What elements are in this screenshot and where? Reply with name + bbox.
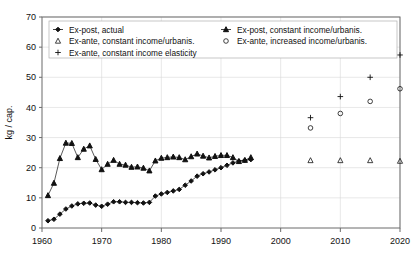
- series-3: [308, 86, 402, 130]
- y-tick-label: 20: [26, 163, 36, 173]
- legend-label: Ex-post, constant income/urbanis.: [237, 25, 362, 35]
- legend-item[interactable]: Ex-ante, constant income/urbanis.: [55, 36, 194, 46]
- data-point: [93, 203, 98, 208]
- data-point: [189, 154, 194, 159]
- data-point: [105, 202, 110, 207]
- y-tick-label: 50: [26, 72, 36, 82]
- data-point: [308, 115, 314, 121]
- data-point: [165, 190, 170, 195]
- data-point: [105, 161, 110, 166]
- legend-label: Ex-ante, increased income/urbanis.: [237, 36, 367, 46]
- x-tick-label: 2020: [390, 236, 410, 246]
- data-point: [183, 183, 188, 188]
- y-axis-tick-labels: 010203040506070: [26, 12, 36, 233]
- data-point: [123, 200, 128, 205]
- data-point: [248, 155, 253, 160]
- data-point: [236, 159, 241, 164]
- legend-label: Ex-ante, constant income/urbanis.: [69, 36, 194, 46]
- x-tick-label: 1970: [92, 236, 112, 246]
- data-point: [206, 155, 211, 160]
- data-point: [123, 162, 128, 167]
- x-axis-ticks: [42, 228, 400, 232]
- data-point: [224, 153, 229, 158]
- data-point: [87, 143, 92, 148]
- data-point: [81, 201, 86, 206]
- data-point: [177, 187, 182, 192]
- legend-item[interactable]: Ex-post, constant income/urbanis.: [221, 25, 362, 35]
- legend-label: Ex-post, actual: [69, 25, 124, 35]
- x-tick-label: 2010: [330, 236, 350, 246]
- data-point: [70, 204, 75, 209]
- data-point: [117, 199, 122, 204]
- series-2: [308, 158, 403, 164]
- data-point: [230, 155, 235, 160]
- data-point: [218, 153, 223, 158]
- data-point: [51, 180, 56, 185]
- data-point: [45, 193, 50, 198]
- data-point: [367, 74, 373, 80]
- data-point: [213, 168, 218, 173]
- data-point: [201, 153, 206, 158]
- chart-container: 010203040506070 196019701980199020002010…: [0, 0, 418, 260]
- data-point: [177, 155, 182, 160]
- data-point: [242, 157, 247, 162]
- data-point: [338, 94, 344, 100]
- data-point: [183, 157, 188, 162]
- legend-item[interactable]: Ex-ante, increased income/urbanis.: [224, 36, 367, 46]
- legend-item[interactable]: Ex-ante, constant income elasticity: [55, 48, 197, 58]
- data-point: [308, 158, 313, 163]
- data-point: [57, 156, 62, 161]
- data-point: [81, 146, 86, 151]
- data-point: [141, 165, 146, 170]
- y-tick-label: 60: [26, 42, 36, 52]
- data-point: [93, 156, 98, 161]
- data-point: [368, 158, 373, 163]
- data-point: [111, 199, 116, 204]
- data-point: [231, 161, 236, 166]
- data-point: [159, 192, 164, 197]
- data-point: [171, 154, 176, 159]
- y-tick-label: 30: [26, 133, 36, 143]
- x-axis-tick-labels: 1960197019801990200020102020: [32, 236, 410, 246]
- data-point: [46, 218, 51, 223]
- data-point: [153, 158, 158, 163]
- data-point: [207, 170, 212, 175]
- data-point: [195, 151, 200, 156]
- data-point: [117, 161, 122, 166]
- data-point: [308, 126, 313, 131]
- data-point: [87, 201, 92, 206]
- data-point: [368, 99, 373, 104]
- data-point: [129, 200, 134, 205]
- series-4: [308, 52, 403, 120]
- y-axis-title-text: kg / cap.: [4, 105, 14, 139]
- y-tick-label: 70: [26, 12, 36, 22]
- legend-label: Ex-ante, constant income elasticity: [69, 48, 198, 58]
- data-point: [63, 140, 68, 145]
- data-point: [159, 155, 164, 160]
- data-point: [147, 168, 152, 173]
- data-point: [99, 204, 104, 209]
- data-point: [135, 200, 140, 205]
- data-point: [225, 163, 230, 168]
- data-point: [129, 164, 134, 169]
- data-point: [69, 140, 74, 145]
- data-point: [111, 157, 116, 162]
- x-tick-label: 1960: [32, 236, 52, 246]
- data-point: [212, 153, 217, 158]
- y-tick-label: 10: [26, 193, 36, 203]
- x-tick-label: 2000: [271, 236, 291, 246]
- x-tick-label: 1990: [211, 236, 231, 246]
- data-point: [76, 202, 81, 207]
- data-point: [135, 164, 140, 169]
- y-tick-label: 40: [26, 103, 36, 113]
- data-point: [141, 201, 146, 206]
- x-tick-label: 1980: [151, 236, 171, 246]
- chart-legend: Ex-post, actualEx-post, constant income/…: [49, 21, 397, 58]
- data-point: [201, 171, 206, 176]
- data-point: [219, 165, 224, 170]
- y-axis-title: kg / cap.: [4, 105, 14, 139]
- chart-svg: 010203040506070 196019701980199020002010…: [0, 0, 418, 260]
- y-tick-label: 0: [31, 223, 36, 233]
- data-point: [171, 189, 176, 194]
- data-point: [165, 155, 170, 160]
